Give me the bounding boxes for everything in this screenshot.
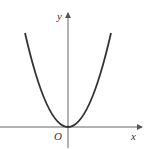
coordinate-plane: y O x [0,0,150,149]
origin-label: O [54,130,62,142]
y-axis-label: y [56,10,62,22]
x-axis-label: x [130,130,136,142]
